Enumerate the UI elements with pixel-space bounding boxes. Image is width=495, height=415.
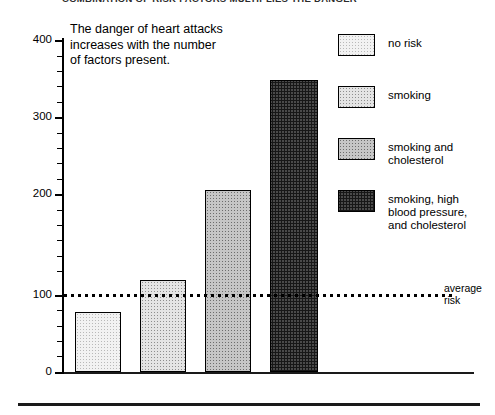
y-tick-minor (57, 56, 63, 57)
legend-swatch-no-risk (338, 34, 375, 56)
y-tick-minor (57, 179, 63, 180)
legend-swatch-smoking (338, 86, 375, 108)
y-tick-minor (57, 271, 63, 272)
y-tick-minor (57, 210, 63, 211)
legend-label-no-risk: no risk (388, 34, 422, 50)
legend-label-smoking-cholesterol: smoking and cholesterol (388, 138, 453, 167)
y-tick-label-100: 100 (22, 289, 52, 301)
y-tick-0 (55, 372, 64, 374)
legend-item-smoking-cholesterol[interactable]: smoking and cholesterol (338, 138, 453, 167)
y-tick-minor (57, 71, 63, 72)
bar-all-factors[interactable] (270, 80, 318, 372)
y-tick-minor (57, 225, 63, 226)
y-tick-minor (57, 240, 63, 241)
chart-plot-area: 400 300 200 100 0 average risk The dange… (0, 0, 495, 415)
y-tick-minor (57, 148, 63, 149)
chart-annotation: The danger of heart attacks increases wi… (70, 22, 270, 69)
legend-swatch-all-factors (338, 190, 375, 212)
y-tick-minor (57, 356, 63, 357)
average-risk-label: average risk (444, 283, 482, 306)
average-risk-line (64, 294, 456, 297)
y-tick-label-200: 200 (22, 188, 52, 200)
legend-swatch-smoking-cholesterol (338, 138, 375, 160)
bar-smoking-cholesterol[interactable] (205, 190, 251, 372)
legend-label-smoking: smoking (388, 86, 431, 102)
y-tick-minor (57, 86, 63, 87)
y-tick-200 (55, 194, 64, 196)
legend-item-no-risk[interactable]: no risk (338, 34, 422, 56)
legend-item-smoking[interactable]: smoking (338, 86, 431, 108)
legend-label-all-factors: smoking, high blood pressure, and choles… (388, 190, 467, 232)
y-tick-minor (57, 163, 63, 164)
y-tick-100 (55, 295, 64, 297)
y-tick-minor (57, 102, 63, 103)
y-axis-line (62, 38, 64, 374)
legend-item-all-factors[interactable]: smoking, high blood pressure, and choles… (338, 190, 467, 232)
y-tick-300 (55, 117, 64, 119)
y-tick-label-0: 0 (22, 366, 52, 378)
y-tick-label-400: 400 (22, 34, 52, 46)
y-tick-minor (57, 133, 63, 134)
bar-no-risk[interactable] (75, 312, 121, 372)
y-tick-400 (55, 40, 64, 42)
y-tick-label-300: 300 (22, 111, 52, 123)
y-tick-minor (57, 256, 63, 257)
y-tick-minor (57, 310, 63, 311)
y-tick-minor (57, 341, 63, 342)
bottom-divider (18, 403, 480, 406)
x-axis-line (62, 372, 474, 374)
y-tick-minor (57, 326, 63, 327)
